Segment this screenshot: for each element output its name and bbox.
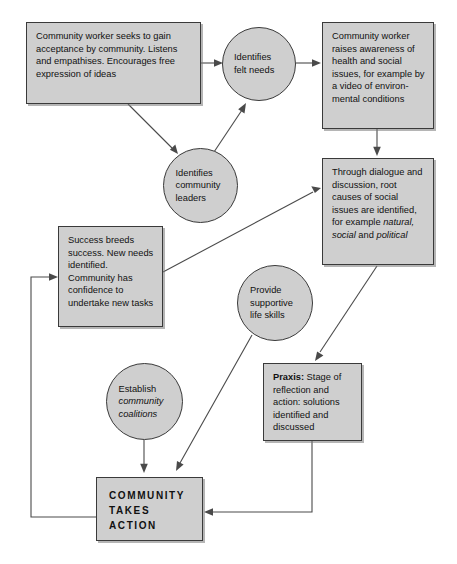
coalitions-lead: Establish xyxy=(119,383,173,396)
node-worker-acceptance[interactable]: Community worker seeks to gain acceptanc… xyxy=(26,22,201,104)
node-felt-needs-label: Identifies felt needs xyxy=(232,51,286,76)
arrow-awareness-to-dialogue xyxy=(373,129,381,156)
dialogue-conj: and xyxy=(356,230,377,240)
arrow-felt-needs-to-awareness xyxy=(296,59,321,67)
arrow-coalitions-to-action xyxy=(140,440,148,473)
dialogue-italic-social: social xyxy=(332,230,356,240)
community-action-line-3: ACTION xyxy=(109,518,202,533)
node-through-dialogue[interactable]: Through dialogue and discussion, root ca… xyxy=(322,158,434,265)
coalitions-italic-community: community xyxy=(119,395,173,408)
dialogue-italic-natural: natural, xyxy=(383,217,414,227)
node-raises-awareness[interactable]: Community worker raises awareness of hea… xyxy=(322,22,434,129)
node-life-skills-label: Provide supportive life skills xyxy=(248,284,302,322)
arrow-dialogue-to-praxis xyxy=(315,266,377,361)
coalitions-italic-coalitions: coalitions xyxy=(119,408,173,421)
node-community-leaders-label: Identifies community leaders xyxy=(174,167,228,205)
community-action-line-1: COMMUNITY xyxy=(109,488,202,503)
arrow-leaders-to-felt-needs xyxy=(214,103,246,152)
node-worker-acceptance-label: Community worker seeks to gain acceptanc… xyxy=(27,23,200,80)
node-through-dialogue-label: Through dialogue and discussion, root ca… xyxy=(323,159,433,242)
arrow-life-skills-to-action xyxy=(176,335,252,471)
node-community-action[interactable]: COMMUNITY TAKES ACTION xyxy=(96,477,203,541)
node-coalitions-label: Establish community coalitions xyxy=(117,383,173,421)
arrow-worker-to-felt-needs xyxy=(201,59,223,67)
community-action-line-2: TAKES xyxy=(109,503,202,518)
dialogue-italic-political: political xyxy=(376,230,407,240)
node-raises-awareness-label: Community worker raises awareness of hea… xyxy=(323,23,433,106)
community-action-lines: COMMUNITY TAKES ACTION xyxy=(97,478,202,533)
node-praxis[interactable]: Praxis: Stage of reflection and action: … xyxy=(263,363,362,441)
node-success-breeds-label: Success breeds success. New needs identi… xyxy=(59,227,162,310)
node-coalitions[interactable]: Establish community coalitions xyxy=(106,363,183,440)
node-life-skills[interactable]: Provide supportive life skills xyxy=(237,265,313,341)
node-praxis-label: Praxis: Stage of reflection and action: … xyxy=(264,364,361,434)
arrow-praxis-to-action xyxy=(204,441,312,516)
node-community-leaders[interactable]: Identifies community leaders xyxy=(163,148,238,223)
arrow-worker-to-leaders xyxy=(128,104,178,154)
praxis-bold-lead: Praxis: xyxy=(273,372,304,382)
node-success-breeds[interactable]: Success breeds success. New needs identi… xyxy=(58,226,163,327)
node-felt-needs[interactable]: Identifies felt needs xyxy=(222,27,296,101)
